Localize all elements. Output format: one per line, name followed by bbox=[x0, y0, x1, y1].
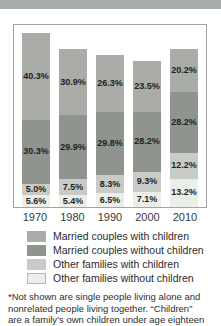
bar-2010: 20.2%28.2%12.2%13.2% bbox=[170, 49, 198, 207]
bar-2000: 23.5%28.2%9.3%7.1% bbox=[133, 61, 161, 207]
segment-value-label: 28.2% bbox=[171, 118, 197, 127]
x-axis-label: 1990 bbox=[96, 211, 124, 224]
x-axis: 19701980199020002010 bbox=[13, 211, 207, 224]
legend-swatch bbox=[27, 259, 46, 270]
segment-value-label: 5.4% bbox=[63, 197, 84, 206]
legend-item: Other families without children bbox=[27, 271, 204, 285]
segment-value-label: 6.5% bbox=[100, 196, 121, 205]
bar-segment: 5.0% bbox=[22, 184, 50, 195]
footnote-line: nonrelated people living together. “Chil… bbox=[8, 303, 218, 315]
bar-segment: 28.2% bbox=[133, 112, 161, 172]
bar-segment: 5.6% bbox=[22, 195, 50, 207]
bar-segment: 6.5% bbox=[96, 193, 124, 207]
segment-value-label: 5.0% bbox=[26, 185, 47, 194]
segment-value-label: 9.3% bbox=[137, 177, 158, 186]
segment-value-label: 29.8% bbox=[97, 139, 123, 148]
chart-footnote: *Not shown are single people living alon… bbox=[8, 291, 218, 326]
x-axis-label: 1970 bbox=[21, 211, 49, 224]
legend-item: Married couples without children bbox=[27, 243, 204, 257]
segment-value-label: 5.6% bbox=[26, 197, 47, 206]
chart-legend: Married couples with children Married co… bbox=[27, 229, 204, 285]
bar-segment: 5.4% bbox=[59, 195, 87, 207]
bar-segment: 28.2% bbox=[170, 92, 198, 152]
bar-segment: 30.9% bbox=[59, 49, 87, 115]
bar-segment: 20.2% bbox=[170, 49, 198, 92]
bar-segment: 13.2% bbox=[170, 179, 198, 207]
bar-segment: 8.3% bbox=[96, 175, 124, 193]
legend-label: Other families with children bbox=[53, 259, 179, 270]
legend-item: Married couples with children bbox=[27, 229, 204, 243]
segment-value-label: 26.3% bbox=[97, 79, 123, 88]
segment-value-label: 40.3% bbox=[23, 72, 49, 81]
bar-segment: 12.2% bbox=[170, 153, 198, 179]
segment-value-label: 28.2% bbox=[134, 137, 160, 146]
legend-label: Married couples without children bbox=[53, 245, 204, 256]
segment-value-label: 30.3% bbox=[23, 147, 49, 156]
bar-segment: 7.1% bbox=[133, 192, 161, 207]
segment-value-label: 30.9% bbox=[60, 78, 86, 87]
segment-value-label: 20.2% bbox=[171, 66, 197, 75]
bar-segment: 23.5% bbox=[133, 61, 161, 111]
x-axis-label: 2010 bbox=[171, 211, 199, 224]
bar-segment: 26.3% bbox=[96, 55, 124, 111]
legend-label: Married couples with children bbox=[53, 231, 189, 242]
page-header-band bbox=[0, 0, 221, 9]
bar-segment: 40.3% bbox=[22, 33, 50, 119]
segment-value-label: 13.2% bbox=[171, 188, 197, 197]
segment-value-label: 8.3% bbox=[100, 180, 121, 189]
bar-1970: 40.3%30.3%5.0%5.6% bbox=[22, 33, 50, 207]
bar-segment: 30.3% bbox=[22, 120, 50, 185]
bar-segment: 29.9% bbox=[59, 115, 87, 179]
bar-segment: 7.5% bbox=[59, 179, 87, 195]
segment-value-label: 29.9% bbox=[60, 143, 86, 152]
x-axis-label: 1980 bbox=[59, 211, 87, 224]
footnote-line: *Not shown are single people living alon… bbox=[8, 291, 218, 303]
bar-1980: 30.9%29.9%7.5%5.4% bbox=[59, 49, 87, 207]
family-households-chart: 40.3%30.3%5.0%5.6%30.9%29.9%7.5%5.4%26.3… bbox=[13, 24, 207, 208]
bar-segment: 9.3% bbox=[133, 172, 161, 192]
legend-swatch bbox=[27, 231, 46, 242]
bar-segment: 29.8% bbox=[96, 112, 124, 176]
segment-value-label: 7.5% bbox=[63, 183, 84, 192]
footnote-line: are a family’s own children under age ei… bbox=[8, 314, 218, 326]
legend-swatch bbox=[27, 245, 46, 256]
legend-label: Other families without children bbox=[53, 273, 194, 284]
segment-value-label: 7.1% bbox=[137, 195, 158, 204]
legend-item: Other families with children bbox=[27, 257, 204, 271]
segment-value-label: 12.2% bbox=[171, 161, 197, 170]
legend-swatch bbox=[27, 273, 46, 284]
segment-value-label: 23.5% bbox=[134, 82, 160, 91]
x-axis-label: 2000 bbox=[134, 211, 162, 224]
bar-1990: 26.3%29.8%8.3%6.5% bbox=[96, 55, 124, 207]
plot-area: 40.3%30.3%5.0%5.6%30.9%29.9%7.5%5.4%26.3… bbox=[14, 25, 206, 207]
